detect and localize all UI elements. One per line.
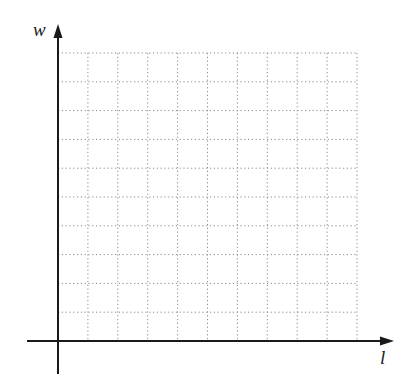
- y-axis-arrow-icon: [54, 24, 63, 38]
- coordinate-grid-diagram: [0, 0, 414, 388]
- axes: [27, 24, 394, 374]
- x-axis-arrow-icon: [380, 337, 394, 346]
- x-axis-label: l: [380, 348, 385, 367]
- dotted-grid: [58, 53, 357, 341]
- y-axis-label: w: [33, 20, 46, 39]
